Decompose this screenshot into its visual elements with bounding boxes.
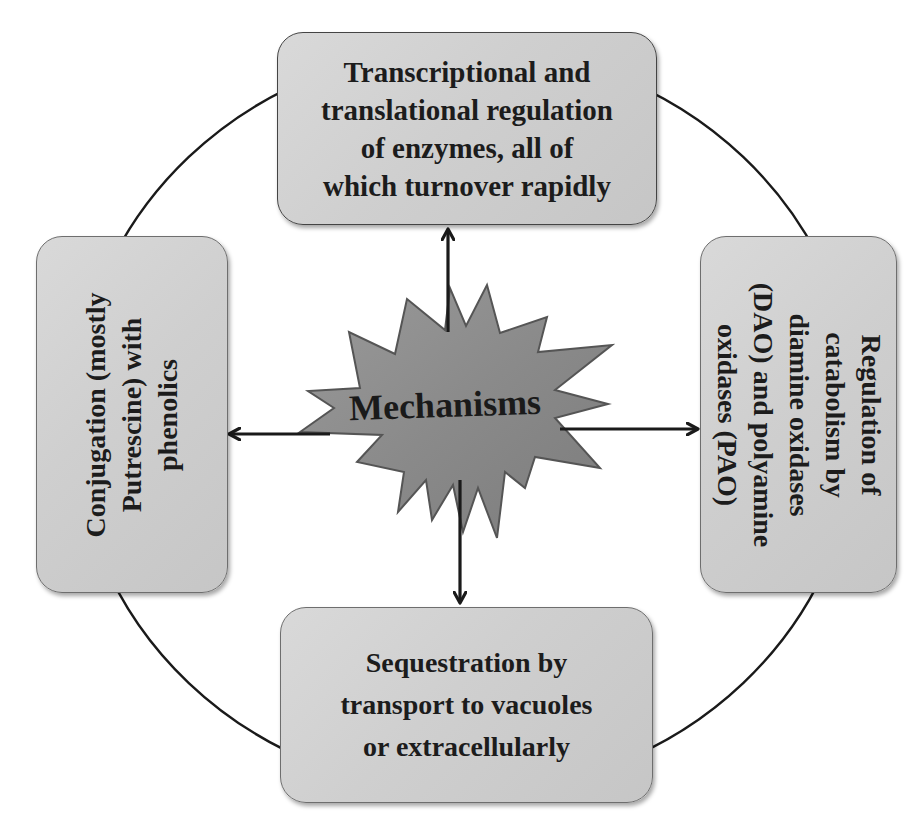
center-label: Mechanisms — [319, 380, 570, 431]
node-text: Transcriptional and translational regula… — [321, 53, 613, 205]
node-catabolism-regulation: Regulation of catabolism by diamine oxid… — [700, 236, 897, 593]
node-text: Sequestration by transport to vacuoles o… — [341, 642, 593, 768]
mechanisms-diagram: Mechanisms Transcriptional and translati… — [0, 0, 924, 831]
node-transcriptional-regulation: Transcriptional and translational regula… — [277, 32, 657, 225]
node-text: Conjugation (mostly Putrescine) with phe… — [78, 245, 186, 585]
node-text: Regulation of catabolism by diamine oxid… — [709, 245, 889, 585]
node-sequestration: Sequestration by transport to vacuoles o… — [280, 607, 653, 803]
node-conjugation: Conjugation (mostly Putrescine) with phe… — [36, 236, 228, 593]
